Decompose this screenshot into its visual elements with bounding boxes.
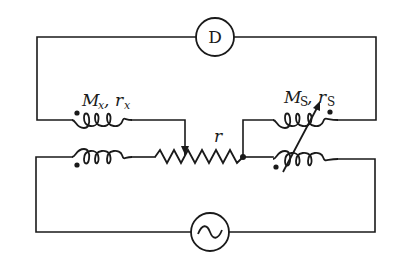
junction-dot: [240, 154, 246, 160]
inductor-mx-secondary: [72, 149, 132, 168]
mx-label: M x , r x: [81, 90, 131, 112]
svg-text:x: x: [124, 99, 131, 112]
ms-label: M S , r S: [283, 87, 335, 109]
polarity-dot: [74, 162, 79, 167]
inductor-ms-primary: [273, 109, 338, 128]
svg-text:r: r: [115, 90, 124, 110]
polarity-dot: [74, 110, 79, 115]
svg-text:r: r: [318, 87, 327, 107]
circuit-diagram: D M x , r x r: [0, 0, 401, 280]
variable-arrow-icon: [283, 101, 320, 172]
detector: D: [196, 18, 234, 56]
source-loop-wires: [36, 157, 375, 232]
sine-wave-icon: [198, 226, 222, 238]
ac-source: [191, 213, 229, 251]
polarity-dot: [273, 164, 278, 169]
svg-text:S: S: [327, 95, 335, 109]
inductor-mx-primary: [72, 110, 132, 128]
inductor-ms-secondary: [273, 151, 338, 170]
detector-label: D: [208, 27, 222, 47]
polarity-dot: [327, 109, 332, 114]
slide-resistor: r: [155, 126, 246, 163]
svg-text:,: ,: [104, 90, 109, 110]
svg-text:r: r: [214, 126, 223, 146]
svg-text:,: ,: [307, 87, 312, 107]
